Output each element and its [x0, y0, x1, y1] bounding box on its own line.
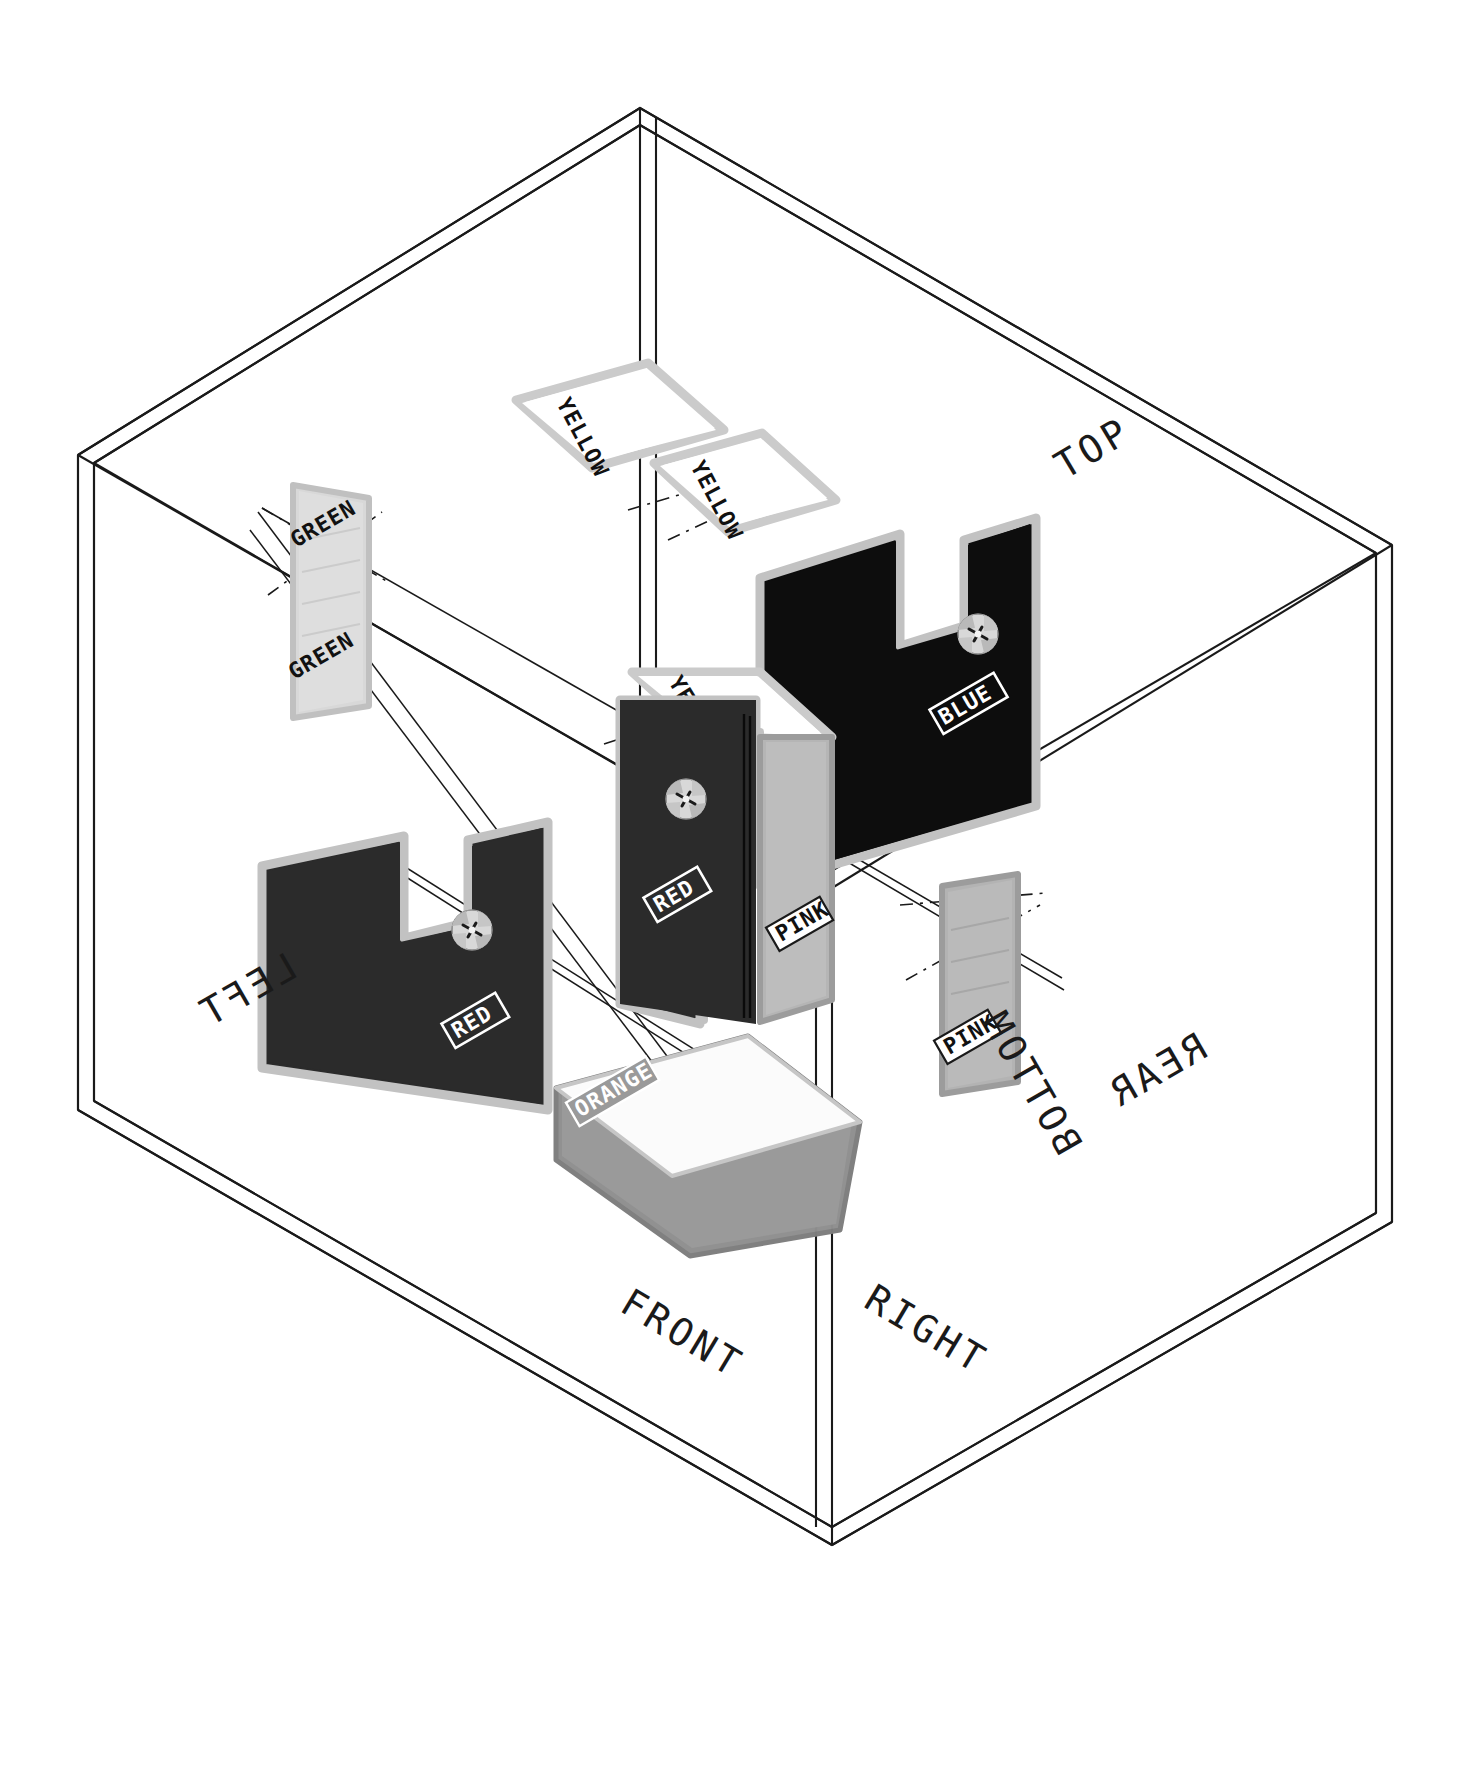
- fastener-red-b: [452, 910, 492, 950]
- isometric-diagram: GREEN GREEN YELLOW YELLOW BLUE YELLOW: [0, 0, 1475, 1789]
- part-orange-plate[interactable]: ORANGE: [556, 1036, 860, 1256]
- fastener-red-a: [666, 779, 706, 819]
- part-red-plate-front[interactable]: RED: [262, 822, 548, 1110]
- fastener-blue: [958, 614, 998, 654]
- diagram-canvas: GREEN GREEN YELLOW YELLOW BLUE YELLOW: [0, 0, 1475, 1789]
- part-green-plate[interactable]: GREEN GREEN: [284, 485, 369, 718]
- part-pink-block[interactable]: PINK: [760, 737, 834, 1022]
- face-label-top: TOP: [1047, 408, 1139, 487]
- face-label-right: RIGHT: [857, 1276, 995, 1383]
- part-yellow-plate-b[interactable]: YELLOW: [654, 433, 836, 544]
- face-label-rear: REAR: [1099, 1025, 1214, 1117]
- face-label-front: FRONT: [613, 1280, 751, 1387]
